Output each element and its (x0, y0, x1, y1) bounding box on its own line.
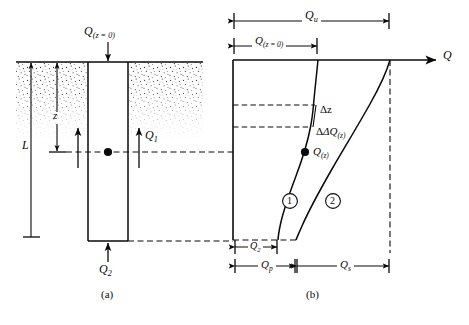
element-node-dot (104, 148, 112, 156)
pile-load-transfer-figure (0, 0, 469, 325)
panel-b-qz0-label: Q(z = 0) (252, 35, 286, 49)
panel-b-q-axis-label: Q (443, 49, 452, 61)
panel-b-qu-label: Qu (302, 9, 321, 25)
load-curve-1 (278, 60, 318, 240)
panel-b-qz-label: Q(z) (313, 146, 329, 160)
panel-a-depth-label: z (53, 110, 57, 121)
panel-b-q2-label: Q2 (248, 241, 263, 254)
load-curve-2 (296, 60, 390, 240)
panel-b-caption: (b) (306, 289, 319, 300)
panel-a-top-load-label: Q(z = 0) (84, 25, 115, 41)
panel-b-delta-z-label: Δz (320, 104, 332, 115)
panel-b-qs-label: Qs (337, 259, 354, 273)
curve-1-badge-label: 1 (287, 196, 292, 206)
soil-stipple-left (16, 62, 88, 142)
panel-a-skin-friction-label: Q1 (145, 129, 158, 145)
panel-b-group (233, 13, 436, 273)
panel-a-group (16, 42, 233, 262)
panel-b-delta-q-label: ΔΔQ(z) (316, 126, 345, 140)
curve1-node-dot (301, 148, 309, 156)
curve-2-badge-label: 2 (330, 196, 335, 206)
panel-a-caption: (a) (101, 289, 113, 300)
panel-b-qp-label: Qp (258, 259, 276, 273)
panel-a-base-resistance-label: Q2 (99, 263, 112, 279)
panel-a-length-label: L (22, 139, 29, 151)
